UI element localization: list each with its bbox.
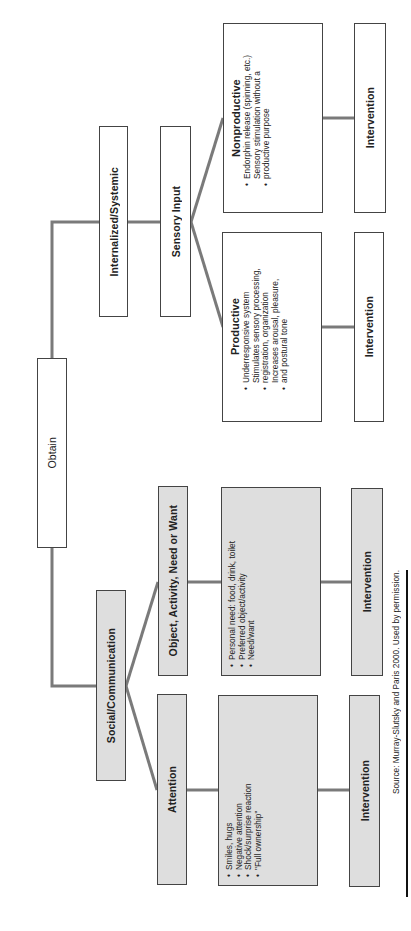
connector-sensory-productive [191, 222, 223, 327]
trunk-lower [52, 548, 96, 686]
nonproductive-bullets: Endorphin release (spinning, etc.) Senso… [243, 50, 272, 187]
internalized-systemic-label: Internalized/Systemic [108, 167, 120, 276]
internalized-systemic-node: Internalized/Systemic [99, 126, 128, 317]
object-activity-node: Object, Activity, Need or Want [158, 486, 188, 676]
intervention-label: Intervention [359, 760, 371, 821]
productive-node: Productive Underresponsive system Stimul… [222, 232, 322, 422]
bullet-item: "Full ownership" [254, 704, 264, 877]
connector-social-object [126, 582, 158, 686]
nonproductive-intervention-node: Intervention [354, 23, 386, 213]
object-activity-label: Object, Activity, Need or Want [167, 505, 179, 656]
intervention-label: Intervention [364, 87, 376, 148]
attention-label: Attention [166, 766, 178, 813]
social-communication-label: Social/Communication [105, 628, 117, 743]
source-text: Source: Murray-Slutsky and Paris 2000. U… [391, 570, 401, 794]
intervention-label: Intervention [363, 296, 375, 357]
object-activity-bullets: Personal need: food, drink, toilet Prefe… [228, 496, 257, 667]
connector-social-attention [126, 686, 157, 790]
source-caption: Source: Murray-Slutsky and Paris 2000. U… [391, 570, 401, 890]
attention-intervention-node: Intervention [349, 695, 380, 887]
attention-node: Attention [157, 694, 187, 885]
productive-intervention-node: Intervention [354, 232, 384, 422]
bullet-item: Stimulates sensory processing, registrat… [252, 264, 271, 391]
connector-sensory-nonproductive [191, 118, 223, 222]
obtain-label: Obtain [46, 437, 58, 469]
object-activity-details: Personal need: food, drink, toilet Prefe… [221, 487, 321, 676]
object-activity-intervention-node: Intervention [351, 488, 383, 676]
productive-bullets: Underresponsive system Stimulates sensor… [242, 264, 290, 391]
divider-rule [406, 570, 408, 897]
obtain-node: Obtain [37, 358, 67, 548]
intervention-label: Intervention [361, 551, 373, 612]
bullet-item: Increases arousal, pleasure, and postura… [271, 264, 290, 391]
attention-bullets: Smiles, hugs Negative attention Shock/su… [225, 704, 263, 877]
attention-details: Smiles, hugs Negative attention Shock/su… [218, 695, 318, 886]
sensory-input-label: Sensory Input [170, 186, 182, 257]
bullet-item: Sensory stimulation without a productive… [253, 50, 272, 187]
bullet-item: Need/want [247, 496, 257, 667]
social-communication-node: Social/Communication [96, 590, 126, 781]
sensory-input-node: Sensory Input [160, 126, 191, 317]
nonproductive-node: Nonproductive Endorphin release (spinnin… [223, 23, 323, 213]
